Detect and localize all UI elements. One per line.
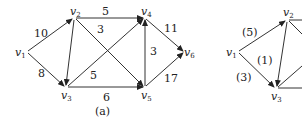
node-v4: v4 xyxy=(141,5,152,19)
edge-b-v2-down-right xyxy=(289,21,302,34)
edge-b-v3-up-right xyxy=(278,66,302,87)
weight-v3-v4: 5 xyxy=(90,69,97,82)
node-v2: v2 xyxy=(70,5,81,19)
weight-b-v1-v3: (3) xyxy=(236,71,252,84)
edge-v3-v4 xyxy=(68,19,143,86)
weight-b-v2-v3: (1) xyxy=(257,54,273,67)
node-b-v3: v3 xyxy=(271,90,282,104)
weight-v1-v3: 8 xyxy=(38,67,45,80)
node-v3: v3 xyxy=(61,89,72,103)
weight-v3-v5: 6 xyxy=(103,91,110,104)
caption-a: (a) xyxy=(95,105,110,118)
edge-v2-v3 xyxy=(66,20,74,85)
weight-v5-v6: 17 xyxy=(164,72,178,85)
weight-b-v1-v2: (5) xyxy=(242,26,258,39)
weight-v5-v4: 3 xyxy=(150,45,157,58)
node-b-v1: v1 xyxy=(226,46,237,60)
weight-v4-v6: 11 xyxy=(164,22,178,35)
edge-v1-v3 xyxy=(28,53,64,86)
weight-v2-v5: 3 xyxy=(97,23,104,36)
edge-v2-v5 xyxy=(76,19,143,86)
graph-figure: 10 8 5 3 5 6 3 11 17 v1 v2 v3 v4 v5 v6 (… xyxy=(0,0,302,125)
node-v1: v1 xyxy=(15,46,26,60)
edge-b-v2-v3 xyxy=(277,22,287,86)
weight-v1-v2: 10 xyxy=(34,27,48,40)
node-v6: v6 xyxy=(184,46,195,60)
graph-b: (5) (3) (1) v1 v2 v3 xyxy=(226,6,302,104)
node-b-v2: v2 xyxy=(283,6,294,20)
node-v5: v5 xyxy=(141,89,152,103)
weight-v2-v4: 5 xyxy=(102,5,109,18)
graph-a: 10 8 5 3 5 6 3 11 17 v1 v2 v3 v4 v5 v6 (… xyxy=(15,5,195,118)
